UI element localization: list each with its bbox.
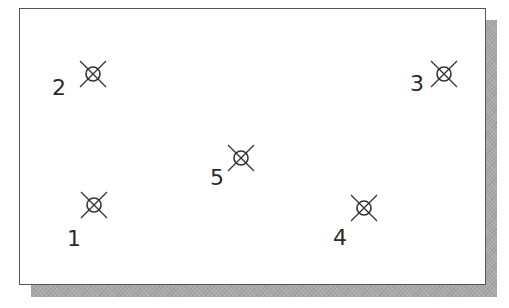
point-marker-4: 4 (333, 195, 377, 250)
drawing-canvas: 12345 (0, 0, 509, 308)
point-label: 1 (67, 226, 81, 251)
point-marker-3: 3 (410, 61, 457, 96)
points-layer: 12345 (52, 61, 457, 251)
point-marker-1: 1 (67, 192, 107, 251)
point-label: 4 (333, 225, 347, 250)
point-label: 2 (52, 75, 66, 100)
point-label: 3 (410, 71, 424, 96)
point-marker-5: 5 (210, 145, 254, 190)
point-label: 5 (210, 165, 224, 190)
point-marker-2: 2 (52, 61, 106, 100)
